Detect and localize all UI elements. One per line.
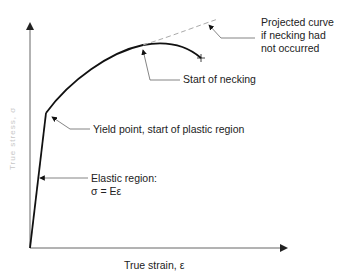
yield-point-label: Yield point, start of plastic region (93, 123, 244, 136)
leader-necking (143, 50, 180, 80)
projected-curve (143, 19, 218, 45)
leader-yield (52, 117, 90, 129)
elastic-region-label: Elastic region: σ = Eε (91, 172, 157, 198)
start-of-necking-label: Start of necking (183, 73, 256, 86)
x-axis-label: True strain, ε (124, 259, 184, 272)
y-axis-label: True stress, σ (8, 107, 17, 170)
elastic-line (30, 113, 46, 248)
projected-curve-label: Projected curve if necking had not occur… (261, 16, 334, 55)
plastic-curve (46, 43, 201, 113)
leader-projected (209, 25, 255, 38)
